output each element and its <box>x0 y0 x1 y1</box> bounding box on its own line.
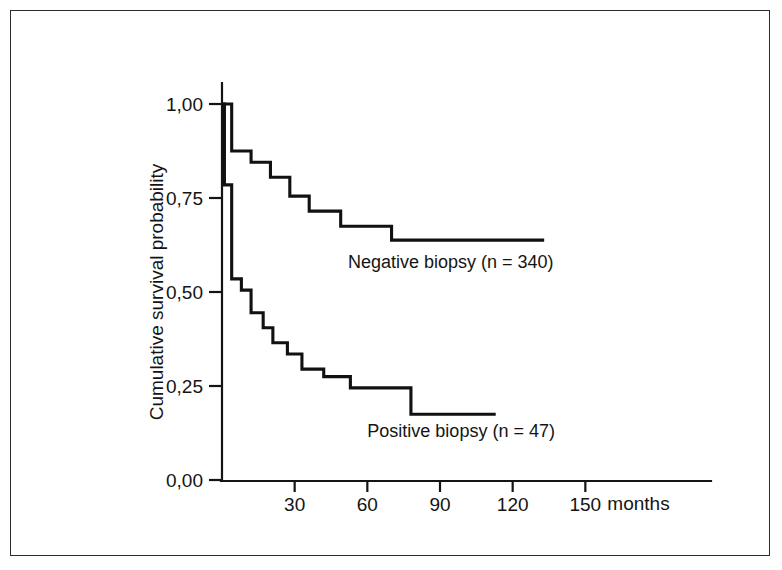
x-axis-ticks <box>295 481 586 492</box>
x-tick-label-4: 150 <box>569 494 601 515</box>
x-tick-label-3: 120 <box>497 494 529 515</box>
series-curve-0 <box>222 104 544 240</box>
y-axis-ticks <box>209 104 222 480</box>
y-tick-label-3: 0,75 <box>166 188 203 209</box>
survival-chart: 0,000,250,500,751,00 306090120150 months… <box>11 11 782 570</box>
y-tick-label-1: 0,25 <box>166 376 203 397</box>
series-label-1: Positive biopsy (n = 47) <box>367 421 555 441</box>
y-axis-title: Cumulative survival probability <box>146 163 167 420</box>
y-axis-tick-labels: 0,000,250,500,751,00 <box>166 94 203 491</box>
y-tick-label-2: 0,50 <box>166 282 203 303</box>
series-labels-group: Negative biopsy (n = 340)Positive biopsy… <box>348 252 555 441</box>
series-label-0: Negative biopsy (n = 340) <box>348 252 554 272</box>
y-tick-label-0: 0,00 <box>166 470 203 491</box>
x-tick-label-2: 90 <box>429 494 450 515</box>
y-tick-label-4: 1,00 <box>166 94 203 115</box>
x-tick-label-1: 60 <box>357 494 378 515</box>
figure-frame: 0,000,250,500,751,00 306090120150 months… <box>10 10 770 556</box>
x-axis-tick-labels: 306090120150 <box>284 494 601 515</box>
x-tick-label-0: 30 <box>284 494 305 515</box>
x-axis-unit-label: months <box>607 493 669 514</box>
